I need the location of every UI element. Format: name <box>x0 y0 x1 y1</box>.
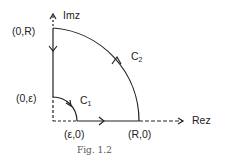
point-label-r-0: (R,0) <box>128 129 151 140</box>
y-axis-label: Imz <box>63 10 80 21</box>
c1-subscript: 1 <box>88 100 92 107</box>
point-label-0-r: (0,R) <box>12 26 35 37</box>
contour-c1-arc <box>53 97 77 121</box>
contour-c2-arc <box>53 28 139 121</box>
c1-name: C <box>80 94 88 106</box>
c2-subscript: 2 <box>139 56 143 63</box>
contour-c2-label: C2 <box>131 51 143 63</box>
x-axis-label: Rez <box>192 115 211 126</box>
contour-c1-label: C1 <box>80 95 92 107</box>
figure-caption: Fig. 1.2 <box>77 146 112 155</box>
point-label-eps-0: (ε,0) <box>64 129 84 140</box>
contour-diagram: Imz (0,R) (0,ε) (ε,0) (R,0) Rez C1 C2 Fi… <box>0 0 228 166</box>
c2-name: C <box>131 50 139 62</box>
point-label-0-eps: (0,ε) <box>16 93 36 104</box>
